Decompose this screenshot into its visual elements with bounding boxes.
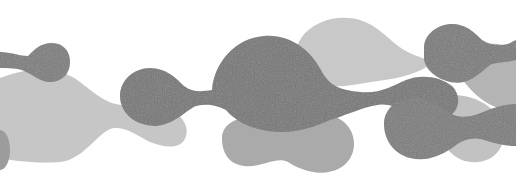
abstract-blob-artwork <box>0 0 516 186</box>
